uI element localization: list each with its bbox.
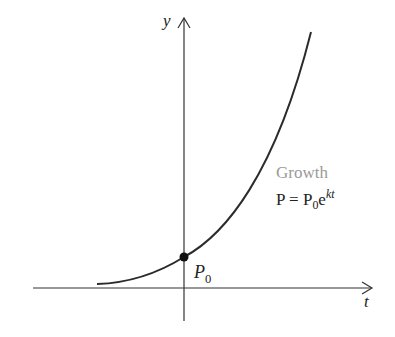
formula-eq: = [289,190,299,209]
y-axis-label: y [163,11,171,31]
p0-label-sub: 0 [205,272,211,286]
formula-coef: P [303,190,312,209]
growth-label: Growth [276,163,328,183]
t-axis-label: t [364,292,369,312]
growth-curve [97,32,311,284]
formula-lhs: P [276,190,285,209]
formula-base: e [318,190,326,209]
p0-label-main: P [194,262,205,282]
p0-label: P0 [194,262,211,287]
p0-point [180,253,189,262]
growth-formula: P = P0ekt [276,187,334,213]
formula-exponent: kt [326,187,335,201]
